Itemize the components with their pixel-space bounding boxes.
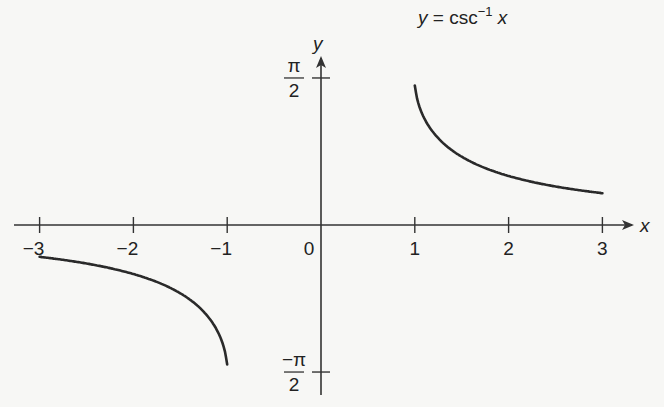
x-tick-label: −2 [117, 238, 139, 259]
curve-right-branch [415, 86, 603, 194]
x-tick-label: 2 [503, 238, 514, 259]
y-tick-label-den: 2 [289, 374, 300, 395]
curve-left-branch [40, 257, 228, 365]
chart-title: y = csc−1 x [416, 4, 509, 28]
chart: −3−2−10123π2−π2xy y = csc−1 x [0, 0, 664, 407]
axes [14, 58, 632, 395]
x-axis-label: x [639, 215, 651, 236]
labels: −3−2−10123π2−π2xy [23, 33, 651, 395]
y-tick-label-den: 2 [289, 80, 300, 101]
x-tick-label: −3 [23, 238, 45, 259]
x-tick-label: 0 [304, 238, 315, 259]
x-tick-label: 3 [597, 238, 608, 259]
y-tick-label-num: π [287, 55, 300, 76]
x-tick-label: 1 [410, 238, 421, 259]
x-tick-label: −1 [210, 238, 232, 259]
y-tick-label-num: −π [282, 349, 306, 370]
y-axis-label: y [311, 33, 324, 54]
